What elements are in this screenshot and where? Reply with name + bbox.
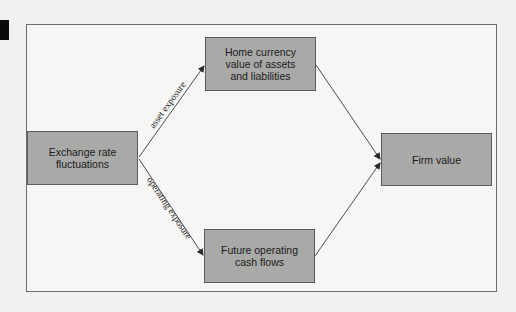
node-firm-value-label: Firm value <box>412 154 461 166</box>
arrow-asset-exposure <box>139 66 204 157</box>
node-exchange-rate-label: Exchange rate fluctuations <box>49 146 117 170</box>
node-exchange-rate: Exchange rate fluctuations <box>27 131 138 185</box>
node-firm-value: Firm value <box>381 133 492 186</box>
node-home-currency: Home currency value of assets and liabil… <box>205 37 316 91</box>
arrow-home-to-firm <box>316 65 380 159</box>
node-future-cash-label: Future operating cash flows <box>221 244 298 268</box>
node-future-cash: Future operating cash flows <box>204 229 315 283</box>
arrow-cash-to-firm <box>315 163 380 256</box>
node-home-currency-label: Home currency value of assets and liabil… <box>225 46 296 82</box>
